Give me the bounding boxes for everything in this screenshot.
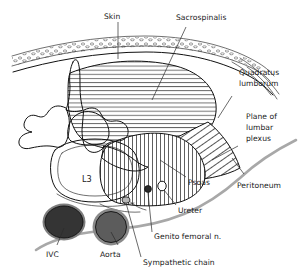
anatomy-diagram: L3 Skin	[0, 0, 299, 278]
label-aorta: Aorta	[100, 250, 121, 259]
psoas-muscle	[100, 133, 205, 206]
label-sympathetic-chain: Sympathetic chain	[143, 258, 215, 267]
genitofemoral-nerve-structure	[145, 186, 152, 193]
label-quadratus-lumborum-line1: Quadratus	[239, 68, 279, 77]
label-plane-lumbar-plexus-line2: lumbar	[246, 123, 274, 132]
label-psoas: Psoas	[188, 178, 210, 187]
label-l3: L3	[82, 174, 92, 184]
label-ivc: IVC	[46, 250, 59, 259]
sympathetic-chain-structure	[122, 197, 130, 203]
label-ureter: Ureter	[178, 206, 203, 215]
label-plane-lumbar-plexus-line3: plexus	[246, 134, 271, 143]
label-plane-lumbar-plexus-line1: Plane of	[246, 112, 277, 121]
label-genito-femoral-nerve: Genito femoral n.	[154, 232, 221, 241]
ivc-vessel	[43, 204, 86, 241]
aorta-vessel	[93, 209, 130, 246]
label-quadratus-lumborum-line2: lumborum	[239, 79, 279, 88]
label-skin: Skin	[104, 12, 120, 21]
label-peritoneum: Peritoneum	[237, 181, 281, 190]
ureter-structure	[158, 181, 166, 191]
label-sacrospinalis: Sacrospinalis	[176, 13, 226, 22]
leader-quadratus	[218, 96, 232, 118]
